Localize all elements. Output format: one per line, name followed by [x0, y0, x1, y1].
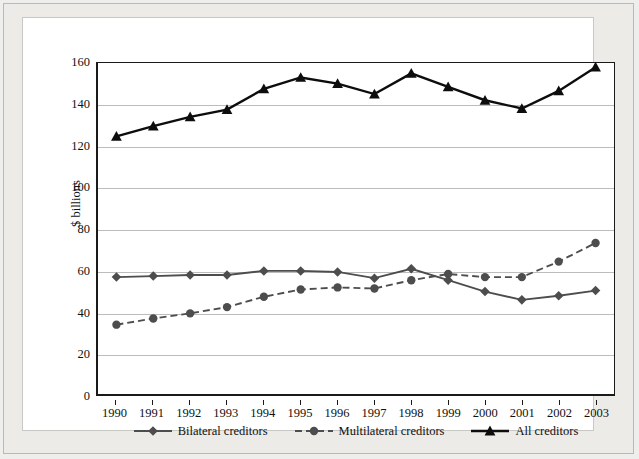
data-point-marker — [112, 272, 122, 282]
data-point-marker — [333, 267, 343, 277]
x-tick-label: 1992 — [176, 406, 201, 421]
data-point-marker — [333, 283, 341, 291]
x-tick-mark — [448, 400, 449, 405]
x-tick-label: 2002 — [547, 406, 572, 421]
data-point-marker — [185, 270, 195, 280]
chart-card: $ billions 020406080100120140160 1990199… — [22, 17, 594, 431]
legend-item[interactable]: All creditors — [470, 424, 578, 439]
x-tick-mark — [596, 400, 597, 405]
x-tick-mark — [263, 400, 264, 405]
data-point-marker — [296, 266, 306, 276]
data-point-marker — [222, 104, 233, 114]
data-point-marker — [554, 291, 564, 301]
data-point-marker — [591, 286, 601, 296]
data-point-marker — [480, 287, 490, 297]
x-tick-mark — [115, 400, 116, 405]
y-tick-label: 140 — [71, 96, 90, 111]
legend-marker-icon — [470, 424, 510, 438]
y-tick-label: 120 — [71, 138, 90, 153]
data-point-marker — [149, 271, 159, 281]
data-point-marker — [370, 273, 380, 283]
data-point-marker — [223, 303, 231, 311]
legend-label: Multilateral creditors — [339, 424, 445, 439]
series-line — [116, 67, 595, 136]
x-tick-mark — [485, 400, 486, 405]
x-tick-label: 1998 — [399, 406, 424, 421]
data-point-marker — [517, 295, 527, 305]
legend-marker-icon — [133, 424, 173, 438]
x-tick-mark — [226, 400, 227, 405]
data-point-marker — [186, 309, 194, 317]
chart-legend: Bilateral creditorsMultilateral creditor… — [96, 421, 615, 441]
y-tick-label: 60 — [78, 263, 91, 278]
data-point-marker — [518, 273, 526, 281]
x-tick-label: 1997 — [362, 406, 387, 421]
data-point-marker — [444, 270, 452, 278]
x-tick-mark — [522, 400, 523, 405]
legend-label: Bilateral creditors — [178, 424, 268, 439]
legend-item[interactable]: Multilateral creditors — [294, 424, 445, 439]
x-tick-label: 2003 — [584, 406, 609, 421]
y-tick-label: 100 — [71, 180, 90, 195]
y-tick-label: 20 — [78, 347, 91, 362]
x-tick-mark — [411, 400, 412, 405]
y-tick-label: 160 — [71, 55, 90, 70]
x-tick-label: 2001 — [510, 406, 535, 421]
series-layer — [98, 63, 614, 394]
data-point-marker — [309, 427, 317, 435]
x-tick-mark — [559, 400, 560, 405]
x-tick-mark — [300, 400, 301, 405]
x-tick-label: 1995 — [287, 406, 312, 421]
legend-marker-icon — [294, 424, 334, 438]
x-tick-mark — [189, 400, 190, 405]
data-point-marker — [406, 68, 417, 78]
data-point-marker — [370, 284, 378, 292]
x-tick-label: 1999 — [436, 406, 461, 421]
y-tick-label: 0 — [84, 389, 90, 404]
data-point-marker — [148, 426, 158, 436]
plot-area — [96, 62, 615, 396]
data-point-marker — [112, 321, 120, 329]
y-tick-label: 80 — [78, 222, 91, 237]
data-point-marker — [149, 314, 157, 322]
data-point-marker — [555, 257, 563, 265]
x-tick-label: 1990 — [102, 406, 127, 421]
legend-label: All creditors — [515, 424, 578, 439]
x-tick-mark — [152, 400, 153, 405]
x-tick-label: 2000 — [473, 406, 498, 421]
y-axis-ticks: 020406080100120140160 — [50, 62, 90, 396]
data-point-marker — [591, 239, 599, 247]
data-point-marker — [590, 62, 601, 72]
x-axis-ticks: 1990199119921993199419951996199719981999… — [96, 400, 615, 420]
y-tick-label: 40 — [78, 305, 91, 320]
data-point-marker — [222, 270, 232, 280]
data-point-marker — [407, 276, 415, 284]
data-point-marker — [260, 293, 268, 301]
x-tick-mark — [374, 400, 375, 405]
data-point-marker — [297, 285, 305, 293]
chart-figure: $ billions 020406080100120140160 1990199… — [0, 0, 639, 459]
legend-item[interactable]: Bilateral creditors — [133, 424, 268, 439]
data-point-marker — [481, 273, 489, 281]
data-point-marker — [407, 264, 417, 274]
x-tick-label: 1991 — [139, 406, 164, 421]
x-tick-label: 1993 — [213, 406, 238, 421]
x-tick-mark — [337, 400, 338, 405]
x-tick-label: 1996 — [324, 406, 349, 421]
x-tick-label: 1994 — [250, 406, 275, 421]
data-point-marker — [553, 86, 564, 96]
data-point-marker — [259, 266, 269, 276]
